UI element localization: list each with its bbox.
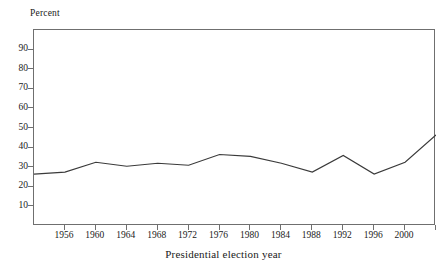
y-axis-tick-label: 70 [4,82,28,92]
chart-figure: Percent 102030405060708090 1956196019641… [0,0,447,279]
y-axis-tick-label: 30 [4,161,28,171]
data-line-svg [34,30,436,226]
y-axis-tick-label: 90 [4,43,28,53]
plot-area [33,29,435,225]
y-axis-unit-label: Percent [30,8,60,19]
y-axis-tick-label: 40 [4,141,28,151]
x-axis-tick-label: 2000 [384,230,424,241]
y-axis-tick-label: 20 [4,180,28,190]
x-axis-title: Presidential election year [0,248,447,261]
series-line-percent [34,135,436,174]
x-axis-tick-mark [435,225,436,230]
y-axis-tick-label: 50 [4,122,28,132]
y-axis-tick-label: 10 [4,200,28,210]
y-axis-tick-label: 60 [4,102,28,112]
y-axis-tick-label: 80 [4,63,28,73]
